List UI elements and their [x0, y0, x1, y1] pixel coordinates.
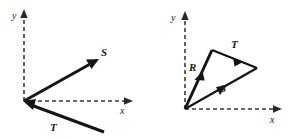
- vector-t-label: T: [50, 121, 58, 133]
- vector-t-right: T: [212, 38, 257, 68]
- panel-vectors-S-and-T: y x S T: [0, 0, 146, 139]
- y-axis-label: y: [11, 10, 17, 21]
- panel-vector-triangle: y x R T S: [146, 0, 292, 139]
- vector-s-label: S: [101, 46, 107, 58]
- vector-t-shaft: [31, 105, 104, 132]
- x-axis-right: x: [185, 105, 282, 125]
- x-axis-arrowhead-icon: [124, 97, 133, 104]
- x-axis-left: x: [24, 97, 133, 116]
- x-axis-label: x: [119, 105, 125, 116]
- vector-t-left: T: [23, 99, 104, 133]
- y-axis-left: y: [11, 9, 28, 101]
- vector-r-label: R: [188, 61, 196, 73]
- vector-s-label: S: [220, 82, 226, 94]
- y-axis-arrowhead-icon: [20, 9, 27, 18]
- vector-t-label: T: [231, 38, 239, 50]
- vector-s-shaft: [24, 63, 92, 101]
- vector-t-arrowhead-icon: [233, 58, 243, 67]
- y-axis-arrowhead-icon: [181, 11, 188, 20]
- x-axis-arrowhead-icon: [273, 105, 282, 112]
- y-axis-label: y: [170, 12, 176, 23]
- vector-diagram-figure: y x S T y: [0, 0, 292, 139]
- vector-s-left: S: [24, 46, 107, 101]
- y-axis-right: y: [170, 11, 189, 109]
- x-axis-label: x: [269, 114, 275, 125]
